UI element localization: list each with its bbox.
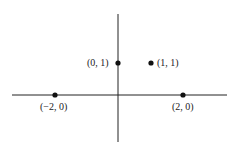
point-2-0 — [180, 92, 185, 97]
axes-svg — [0, 0, 236, 159]
label-0-1: (0, 1) — [87, 58, 109, 68]
label-1-1: (1, 1) — [157, 58, 179, 68]
point-0-1 — [115, 60, 120, 65]
coordinate-plane-diagram: (0, 1) (1, 1) (−2, 0) (2, 0) — [0, 0, 236, 159]
label-neg2-0: (−2, 0) — [40, 102, 67, 112]
point-1-1 — [148, 60, 153, 65]
label-2-0: (2, 0) — [172, 102, 194, 112]
point-neg2-0 — [52, 92, 57, 97]
